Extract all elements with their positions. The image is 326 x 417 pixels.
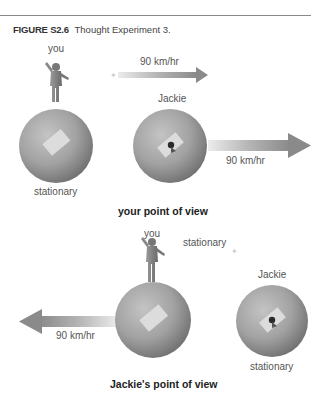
label-jackie-bottom: Jackie [258, 269, 286, 280]
label-star-stationary: stationary [183, 237, 226, 248]
star-icon: ✦ [231, 247, 238, 256]
sphere-you-bottom [115, 282, 191, 358]
sphere-jackie-top [133, 109, 207, 183]
svg-text:✦: ✦ [110, 71, 117, 80]
small-velocity-arrow-top: ✦ [110, 67, 208, 83]
label-jackie-stationary: stationary [250, 361, 293, 372]
panel-title-jackie-pov: Jackie's point of view [110, 378, 218, 390]
panel-title-your-pov: your point of view [118, 205, 208, 217]
label-small-arrow-speed: 90 km/hr [140, 56, 179, 67]
astronaut-icon [141, 237, 165, 282]
label-you-stationary: stationary [34, 186, 77, 197]
label-big-arrow-speed-top: 90 km/hr [226, 155, 265, 166]
label-jackie-top: Jackie [158, 93, 186, 104]
sphere-jackie-bottom [236, 285, 308, 357]
label-you-top: you [48, 43, 64, 54]
label-big-arrow-speed-bottom: 90 km/hr [56, 330, 95, 341]
label-you-bottom: you [144, 228, 160, 239]
sphere-you-top [19, 109, 93, 183]
astronaut-icon [45, 62, 69, 102]
